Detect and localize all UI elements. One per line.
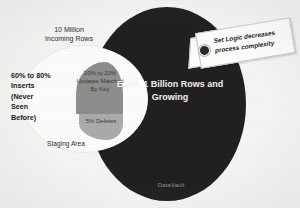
datavault-label: DataVault: [133, 181, 209, 188]
staging-area-label: Staging Area: [33, 140, 99, 148]
deletes-label: 5% Deletes: [80, 117, 122, 125]
incoming-rows-label: 10 Million Incoming Rows: [30, 26, 108, 44]
diagram-canvas: 10 Million Incoming Rows 60% to 80% Inse…: [0, 0, 300, 208]
inserts-label: 60% to 80% Inserts (Never Seen Before): [11, 71, 73, 123]
edw-label: EDW: 1 Billion Rows and Growing: [116, 78, 224, 104]
